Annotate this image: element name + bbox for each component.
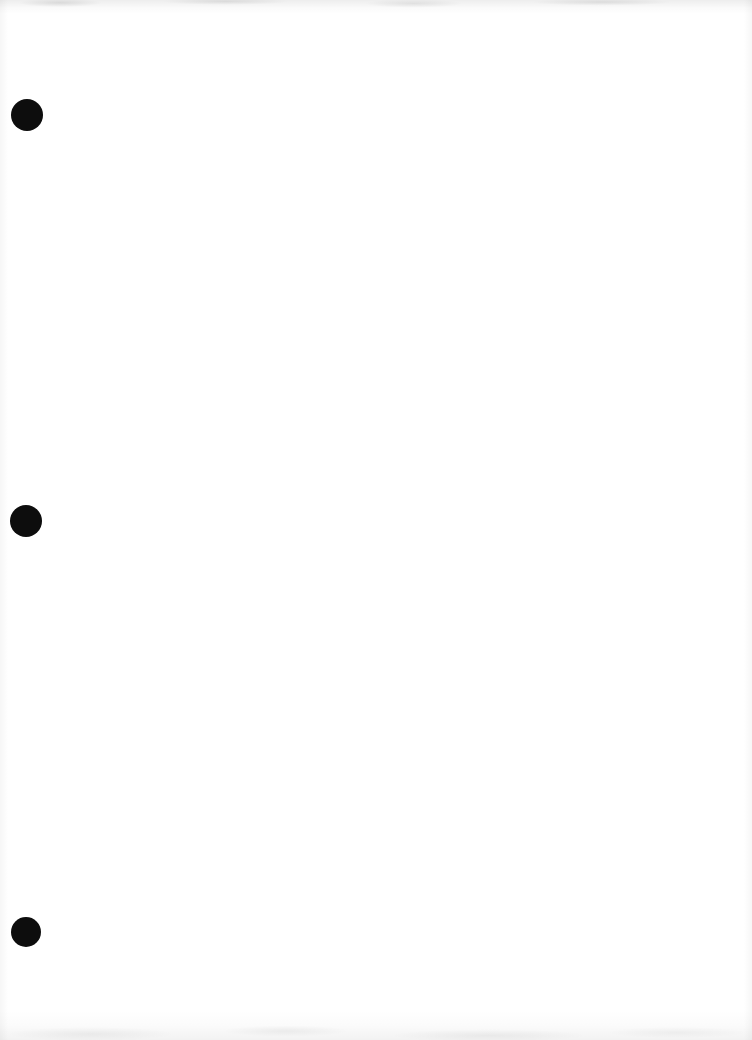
punch-hole-top <box>11 99 43 131</box>
punch-hole-bottom <box>11 917 41 947</box>
scanned-blank-page <box>0 0 752 1040</box>
punch-hole-middle <box>10 505 42 537</box>
punch-holes-layer <box>0 0 752 1040</box>
